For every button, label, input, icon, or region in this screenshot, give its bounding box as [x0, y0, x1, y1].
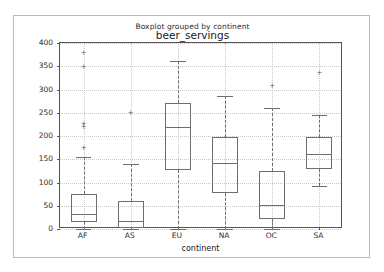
cap-lower: [170, 229, 186, 230]
y-tick-label: 300: [19, 85, 53, 94]
box-sa: +: [60, 43, 343, 229]
cap-lower: [264, 229, 280, 230]
x-tick-label-as: AS: [110, 231, 150, 240]
x-tick-label-na: NA: [204, 231, 244, 240]
y-tick-mark: [57, 229, 60, 230]
plot-area: ++++++++: [59, 42, 342, 228]
cap-lower: [123, 229, 139, 230]
cap-upper: [312, 115, 328, 116]
y-tick-label: 200: [19, 131, 53, 140]
whisker-upper: [319, 115, 320, 137]
y-tick-label: 0: [19, 224, 53, 233]
outlier-marker: +: [316, 71, 323, 76]
median-line: [306, 154, 332, 155]
y-tick-label: 400: [19, 38, 53, 47]
x-tick-label-oc: OC: [251, 231, 291, 240]
figure-canvas: Boxplot grouped by continent beer_servin…: [13, 15, 370, 258]
whisker-lower: [319, 169, 320, 186]
y-tick-label: 100: [19, 178, 53, 187]
y-tick-label: 150: [19, 154, 53, 163]
y-tick-label: 250: [19, 108, 53, 117]
axes-title: beer_servings: [14, 29, 371, 41]
x-tick-label-af: AF: [63, 231, 103, 240]
cap-lower: [312, 186, 328, 187]
grid-line-horizontal: [60, 229, 341, 230]
cap-lower: [76, 229, 92, 230]
x-axis-label: continent: [59, 244, 342, 253]
y-tick-label: 50: [19, 201, 53, 210]
y-tick-label: 350: [19, 61, 53, 70]
x-tick-label-eu: EU: [157, 231, 197, 240]
x-tick-label-sa: SA: [298, 231, 338, 240]
